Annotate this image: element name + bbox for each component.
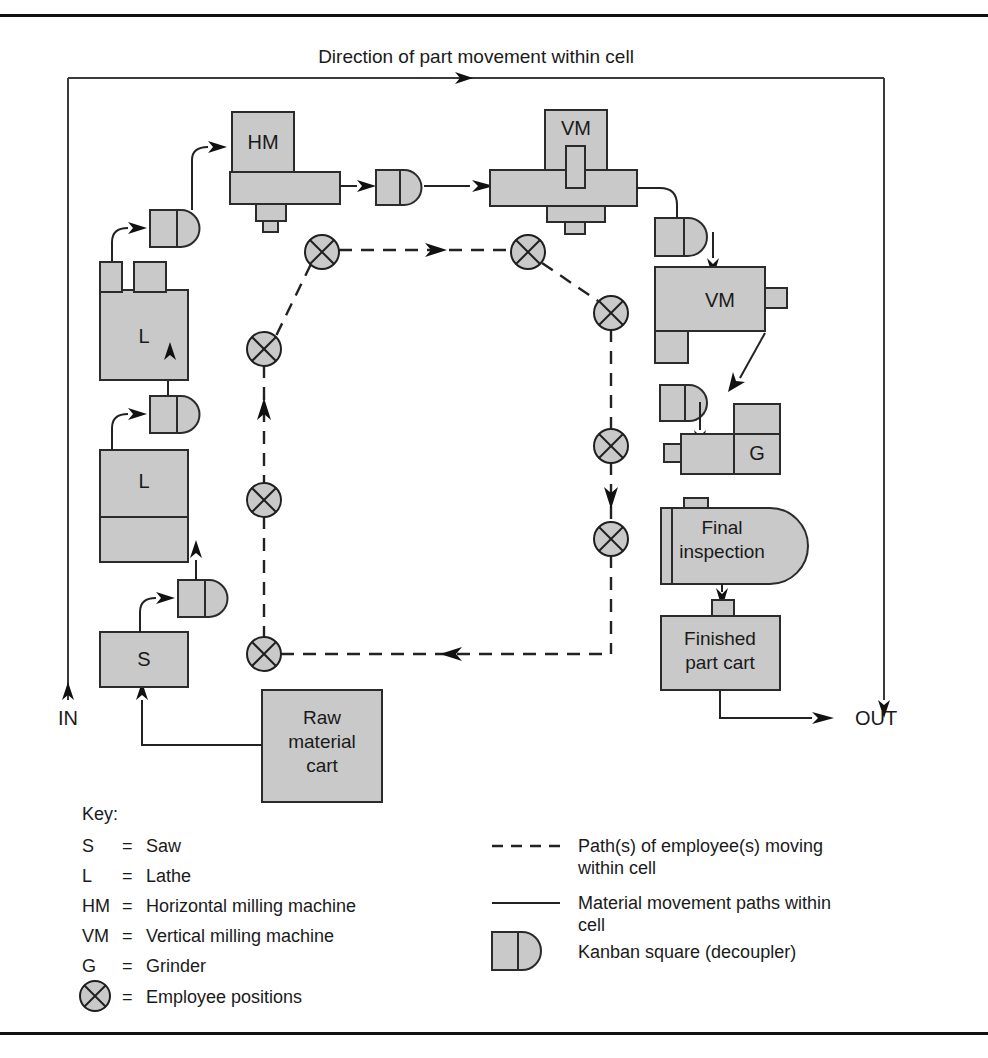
- figure-page: Direction of part movement within cell I…: [0, 0, 988, 1058]
- path-kanban1-to-hm: [192, 147, 208, 210]
- vm1-label: VM: [561, 117, 591, 139]
- key-text-line2: cell: [578, 915, 605, 935]
- employee-position: [594, 296, 628, 330]
- key-symbol: L: [82, 866, 92, 886]
- raw-cart-line2: material: [288, 731, 356, 752]
- kanban-square-vm2-in: [655, 218, 707, 256]
- finished-cart-line1: Finished: [684, 628, 756, 649]
- kanban-square-icon: [492, 932, 541, 970]
- vm2-label: VM: [705, 289, 735, 311]
- lathe-lower: L: [100, 450, 188, 562]
- key-equals: =: [122, 836, 133, 856]
- final-inspection-station: Final inspection: [661, 498, 808, 584]
- path-cart-to-out: [720, 690, 812, 718]
- key-text: Grinder: [146, 956, 206, 976]
- saw-label: S: [137, 648, 150, 670]
- path-lathe2-to-kanban2: [112, 414, 128, 450]
- employee-position: [305, 235, 339, 269]
- path-lathe1-to-kanban1: [112, 228, 128, 262]
- key-entry-employee-path: Path(s) of employee(s) moving within cel…: [492, 836, 823, 878]
- employee-positions: [247, 235, 628, 671]
- final-inspection-line1: Final: [701, 517, 742, 538]
- employee-position: [247, 637, 281, 671]
- vertical-milling-machine-top: VM: [490, 110, 637, 234]
- key-text-line1: Material movement paths within: [578, 893, 831, 913]
- finished-cart-line2: part cart: [685, 652, 755, 673]
- employee-position: [247, 332, 281, 366]
- path-rawcart-to-saw: [142, 700, 262, 745]
- key-entry-lathe: L = Lathe: [82, 866, 191, 886]
- finished-part-cart: Finished part cart: [661, 616, 780, 690]
- key-text: Lathe: [146, 866, 191, 886]
- raw-cart-line3: cart: [306, 755, 338, 776]
- out-label: OUT: [855, 707, 897, 729]
- key-text: Employee positions: [146, 987, 302, 1007]
- key-equals: =: [122, 987, 133, 1007]
- vertical-milling-machine-right: VM: [655, 267, 787, 363]
- figure-caption-strip: [0, 1040, 988, 1058]
- employee-position: [247, 483, 281, 517]
- key-text-line1: Path(s) of employee(s) moving: [578, 836, 823, 856]
- cell-layout-diagram: Direction of part movement within cell I…: [0, 0, 988, 1058]
- raw-material-cart: Raw material cart: [262, 690, 382, 802]
- lathe2-label: L: [138, 470, 149, 492]
- key-symbol: S: [82, 836, 94, 856]
- key-equals: =: [122, 896, 133, 916]
- key-entry-employee: = Employee positions: [80, 981, 302, 1011]
- key-entry-kanban: Kanban square (decoupler): [492, 932, 796, 970]
- key-symbol: HM: [82, 896, 110, 916]
- key-text-line1: Kanban square (decoupler): [578, 942, 796, 962]
- key-entry-material-path: Material movement paths within cell: [492, 893, 831, 935]
- path-vm1-to-kanban: [637, 188, 677, 220]
- key-equals: =: [122, 926, 133, 946]
- path-saw-to-kanban3: [140, 598, 156, 632]
- kanban-square-hm-in: [150, 210, 200, 247]
- header-note: Direction of part movement within cell: [318, 46, 634, 67]
- key-text: Horizontal milling machine: [146, 896, 356, 916]
- kanban-square-hm-out: [376, 170, 422, 205]
- employee-position: [594, 522, 628, 556]
- hm-label: HM: [247, 131, 278, 153]
- key-title: Key:: [82, 804, 118, 824]
- horizontal-milling-machine: HM: [230, 112, 340, 232]
- cart-neck: [712, 600, 734, 616]
- key-entry-hm: HM = Horizontal milling machine: [82, 896, 356, 916]
- key-equals: =: [122, 956, 133, 976]
- final-inspection-line2: inspection: [679, 541, 765, 562]
- kanban-square-saw: [178, 580, 228, 617]
- employee-movement-path: [257, 243, 618, 661]
- key-equals: =: [122, 866, 133, 886]
- grinder-label: G: [749, 442, 765, 464]
- employee-position: [511, 235, 545, 269]
- key-entry-saw: S = Saw: [82, 836, 182, 856]
- key-symbol: G: [82, 956, 96, 976]
- path-vm2-to-kanban: [740, 333, 765, 378]
- saw-machine: S: [100, 632, 188, 687]
- key-symbol: VM: [82, 926, 109, 946]
- kanban-square-lathe: [150, 396, 200, 433]
- key-text-line2: within cell: [577, 858, 656, 878]
- employee-position: [594, 429, 628, 463]
- key-entry-vm: VM = Vertical milling machine: [82, 926, 334, 946]
- lathe-upper: L: [100, 262, 188, 380]
- lathe1-label: L: [138, 325, 149, 347]
- key-text: Saw: [146, 836, 182, 856]
- raw-cart-line1: Raw: [303, 707, 341, 728]
- in-label: IN: [58, 707, 78, 729]
- key-entry-grinder: G = Grinder: [82, 956, 206, 976]
- employee-position-icon: [80, 981, 110, 1011]
- key-text: Vertical milling machine: [146, 926, 334, 946]
